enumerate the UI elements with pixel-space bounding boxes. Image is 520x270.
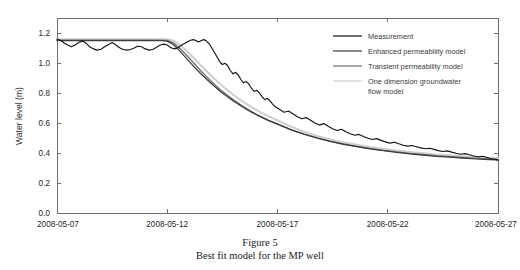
series-line-transient-permeability-model [57,40,498,159]
legend-label-1: Measurement [368,32,413,41]
caption-figure-number: Figure 5 [0,236,520,249]
x-tick-label: 2008-05-17 [257,220,299,229]
x-tick-label: 2008-05-07 [37,220,79,229]
legend-label-4-line2: flow model [368,87,404,96]
data-series-group [57,39,498,160]
y-tick-label: 1.2 [39,29,51,38]
y-tick-label: 0.2 [39,179,51,188]
x-tick-label: 2008-05-22 [367,220,409,229]
legend-label-2: Enhanced permeability model [368,47,466,56]
y-axis-title: Water level (m) [14,87,24,145]
y-axis-ticks: 0.00.20.40.60.81.01.2 [39,29,498,218]
figure-container: 0.00.20.40.60.81.01.2 2008-05-072008-05-… [0,0,520,270]
figure-caption: Figure 5 Best fit model for the MP well [0,236,520,262]
chart-canvas: 0.00.20.40.60.81.01.2 2008-05-072008-05-… [0,0,520,270]
y-tick-label: 0.0 [39,209,51,218]
legend-label-4-line1: One dimension groundwater [368,77,461,86]
chart-legend: MeasurementEnhanced permeability modelTr… [333,32,466,96]
caption-figure-title: Best fit model for the MP well [0,249,520,262]
x-tick-label: 2008-05-12 [146,220,188,229]
series-line-enhanced-permeability-model [57,41,498,160]
y-tick-label: 0.6 [39,119,51,128]
x-tick-label: 2008-05-27 [475,220,517,229]
y-tick-label: 1.0 [39,59,51,68]
series-line-one-dimension-groundwater-flow-model [57,39,498,158]
series-line-measurement [57,39,498,160]
y-tick-label: 0.8 [39,89,51,98]
y-tick-label: 0.4 [39,149,51,158]
legend-label-3: Transient permeability model [368,62,463,71]
